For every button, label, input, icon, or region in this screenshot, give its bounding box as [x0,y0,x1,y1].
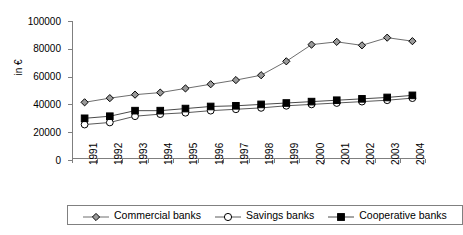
legend-entry: Commercial banks [83,209,201,221]
x-axis-tick-label-wrap: 1998 [265,165,266,166]
y-axis-tick-label-wrap: 20000 [66,132,67,133]
data-point-marker [333,38,340,45]
y-axis-tick-label-wrap: 60000 [66,77,67,78]
y-axis-tick-label: 0 [55,156,61,166]
data-point-marker [409,38,416,45]
y-axis-tick-label-wrap: 80000 [66,49,67,50]
series-plot [72,21,425,160]
data-point-marker [207,103,214,110]
legend-symbol-diamond-icon [83,209,109,221]
chart-legend: Commercial banksSavings banksCooperative… [67,205,463,225]
data-point-marker [207,81,214,88]
x-axis-tick-label-wrap: 1992 [114,165,115,166]
data-point-marker [106,119,113,126]
x-axis-tick-label-wrap: 2002 [366,165,367,166]
legend-symbol-square-icon [328,209,354,221]
data-point-marker [81,99,88,106]
data-point-marker [283,58,290,65]
x-axis-tick-label-wrap: 2001 [341,165,342,166]
x-axis-tick-label-wrap: 1994 [164,165,165,166]
data-point-marker [131,91,138,98]
data-point-marker [258,101,265,108]
data-point-marker [182,85,189,92]
x-axis-tick-label-wrap: 1991 [89,165,90,166]
y-axis-tick-label-wrap: 40000 [66,104,67,105]
legend-entry: Cooperative banks [328,209,447,221]
data-point-marker [107,113,114,120]
data-point-marker [358,42,365,49]
data-point-marker [308,98,315,105]
legend-symbol-circle-icon [215,209,241,221]
legend-label: Savings banks [246,210,314,221]
data-point-marker [258,72,265,79]
x-axis-tick-label-wrap: 1999 [290,165,291,166]
x-axis-tick-label-wrap: 1997 [240,165,241,166]
x-axis-tick-label-wrap: 1996 [215,165,216,166]
x-axis-tick-label-wrap: 1993 [139,165,140,166]
data-point-marker [233,102,240,109]
y-axis-tick-label: 60000 [33,72,61,82]
plot-area: 020000400006000080000100000 199119921993… [72,21,425,159]
legend-label: Commercial banks [114,210,201,221]
data-point-marker [384,34,391,41]
data-point-marker [409,92,416,99]
data-point-marker [106,95,113,102]
data-point-marker [359,96,366,103]
y-axis-tick-label: 80000 [33,44,61,54]
y-axis-tick-label-wrap: 0 [66,160,67,161]
x-axis-tick-label-wrap: 1995 [189,165,190,166]
data-point-marker [283,100,290,107]
y-axis-tick-label: 40000 [33,100,61,110]
data-point-marker [157,89,164,96]
data-point-marker [384,94,391,101]
data-point-marker [308,41,315,48]
data-point-marker [232,76,239,83]
data-point-marker [333,97,340,104]
y-axis-tick-label: 20000 [33,128,61,138]
x-axis-tick-label-wrap: 2000 [316,165,317,166]
x-axis-tick-label-wrap: 2003 [391,165,392,166]
data-point-marker [81,115,88,122]
data-point-marker [157,107,164,114]
y-axis-title: in € [13,38,24,98]
legend-entry: Savings banks [215,209,314,221]
data-point-marker [132,107,139,114]
y-axis-tick-label-wrap: 100000 [66,21,67,22]
legend-label: Cooperative banks [359,210,447,221]
data-point-marker [182,105,189,112]
y-axis-tick-label: 100000 [28,17,61,27]
x-axis-tick-label-wrap: 2004 [416,165,417,166]
data-point-marker [81,121,88,128]
